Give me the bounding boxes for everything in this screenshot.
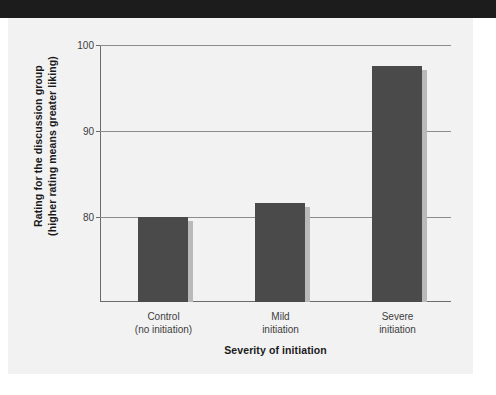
category-label-mild: Mild initiation (233, 310, 328, 336)
category-label-mild-line-2: initiation (233, 323, 328, 336)
bar-shadow-mild (305, 207, 310, 302)
y-tick-label-90: 90 (83, 126, 94, 137)
y-axis-line (100, 45, 101, 302)
bar-mild[interactable] (255, 203, 305, 302)
category-label-severe: Severe initiation (350, 310, 445, 336)
y-tick-label-80: 80 (83, 212, 94, 223)
y-tick-label-100: 100 (77, 40, 94, 51)
y-tick-mark-100 (96, 45, 100, 46)
header-band (0, 0, 496, 18)
category-label-severe-line-1: Severe (350, 310, 445, 323)
chart-panel: Rating for the discussion group (higher … (8, 18, 473, 374)
y-axis-title: Rating for the discussion group (higher … (31, 41, 63, 251)
figure-container: Rating for the discussion group (higher … (0, 0, 496, 395)
y-axis-title-line-2: (higher rating means greater liking) (45, 41, 59, 251)
bar-group-severe: Severe initiation (350, 45, 445, 302)
bar-control[interactable] (138, 217, 188, 302)
y-tick-mark-80 (96, 217, 100, 218)
bar-group-mild: Mild initiation (233, 45, 328, 302)
category-label-control: Control (no initiation) (116, 310, 211, 336)
category-label-control-line-2: (no initiation) (116, 323, 211, 336)
bar-shadow-control (188, 221, 193, 302)
category-label-control-line-1: Control (116, 310, 211, 323)
category-label-mild-line-1: Mild (233, 310, 328, 323)
plot-area: 100 90 80 Control (no initiation) (100, 45, 451, 302)
y-tick-mark-90 (96, 131, 100, 132)
bar-severe[interactable] (372, 66, 422, 302)
bar-shadow-severe (422, 70, 427, 302)
category-label-severe-line-2: initiation (350, 323, 445, 336)
y-axis-title-line-1: Rating for the discussion group (31, 41, 45, 251)
x-axis-title: Severity of initiation (100, 344, 451, 356)
bar-group-control: Control (no initiation) (116, 45, 211, 302)
